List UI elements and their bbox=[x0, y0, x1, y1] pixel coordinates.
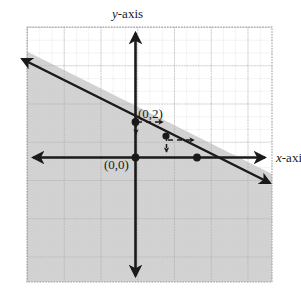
y-intercept-point-label: (0,2) bbox=[138, 106, 163, 122]
point-midpoint bbox=[162, 132, 169, 139]
point-x-intercept bbox=[193, 154, 201, 162]
coordinate-plane-svg bbox=[0, 0, 301, 299]
figure-root: y-axis x-axis (0,2) (0,0) bbox=[0, 0, 301, 299]
grid-major bbox=[27, 27, 272, 282]
point-origin bbox=[132, 154, 140, 162]
x-axis-label: x-axis bbox=[276, 150, 301, 166]
origin-point-label: (0,0) bbox=[104, 157, 129, 173]
y-axis-label: y-axis bbox=[112, 6, 143, 22]
